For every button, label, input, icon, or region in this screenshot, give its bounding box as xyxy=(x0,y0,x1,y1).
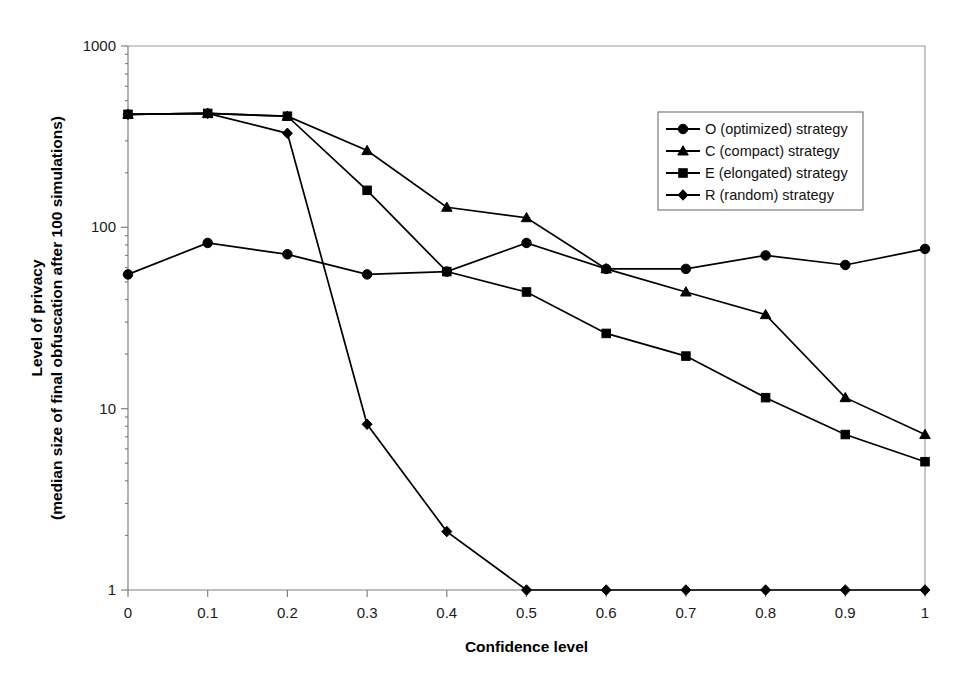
data-point-circle xyxy=(203,238,213,248)
line-chart: 110100100000.10.20.30.40.50.60.70.80.91C… xyxy=(0,0,975,675)
data-point-square xyxy=(283,112,292,121)
legend-label: C (compact) strategy xyxy=(705,143,840,159)
x-tick-label: 0.8 xyxy=(755,604,776,621)
x-tick-label: 0.2 xyxy=(277,604,298,621)
x-tick-label: 0.5 xyxy=(516,604,537,621)
data-point-circle xyxy=(920,244,930,254)
data-point-square xyxy=(602,329,611,338)
data-point-diamond xyxy=(761,585,771,596)
x-tick-label: 0.1 xyxy=(197,604,218,621)
data-point-square xyxy=(363,186,372,195)
legend-marker-square xyxy=(679,169,688,178)
data-point-diamond xyxy=(840,585,850,596)
y-tick-label: 1 xyxy=(108,581,116,598)
data-point-square xyxy=(522,288,531,297)
data-point-diamond xyxy=(282,128,292,139)
data-point-circle xyxy=(522,238,532,248)
data-point-circle xyxy=(123,270,133,280)
x-tick-label: 0.4 xyxy=(436,604,457,621)
chart-legend: O (optimized) strategyC (compact) strate… xyxy=(658,112,863,210)
data-point-circle xyxy=(841,260,851,270)
y-axis-title-line1: Level of privacy xyxy=(28,259,45,377)
data-point-square xyxy=(682,352,691,361)
data-point-diamond xyxy=(522,585,532,596)
x-tick-label: 0.3 xyxy=(357,604,378,621)
series-1 xyxy=(123,238,930,279)
data-point-square xyxy=(443,267,452,276)
data-point-square xyxy=(841,430,850,439)
x-axis-title: Confidence level xyxy=(465,638,588,655)
x-tick-label: 1 xyxy=(921,604,929,621)
legend-label: E (elongated) strategy xyxy=(705,165,848,181)
x-tick-label: 0 xyxy=(124,604,132,621)
data-point-triangle xyxy=(442,202,453,211)
data-point-square xyxy=(761,393,770,402)
data-point-diamond xyxy=(681,585,691,596)
x-tick-label: 0.6 xyxy=(596,604,617,621)
data-point-diamond xyxy=(601,585,611,596)
legend-label: R (random) strategy xyxy=(705,187,835,203)
chart-figure: 110100100000.10.20.30.40.50.60.70.80.91C… xyxy=(0,0,975,675)
data-point-diamond xyxy=(920,585,930,596)
data-point-triangle xyxy=(920,429,931,438)
data-point-triangle xyxy=(362,145,373,154)
legend-marker-circle xyxy=(678,124,688,134)
y-axis-title-line2: (median size of final obfuscation after … xyxy=(48,116,65,520)
x-tick-label: 0.9 xyxy=(835,604,856,621)
data-point-circle xyxy=(283,250,293,260)
y-tick-label: 10 xyxy=(99,400,116,417)
y-tick-label: 1000 xyxy=(83,37,116,54)
data-point-circle xyxy=(681,264,691,274)
data-point-square xyxy=(921,457,930,466)
data-point-circle xyxy=(362,270,372,280)
y-tick-label: 100 xyxy=(91,218,116,235)
legend-label: O (optimized) strategy xyxy=(705,121,848,137)
data-point-circle xyxy=(761,251,771,261)
x-tick-label: 0.7 xyxy=(675,604,696,621)
